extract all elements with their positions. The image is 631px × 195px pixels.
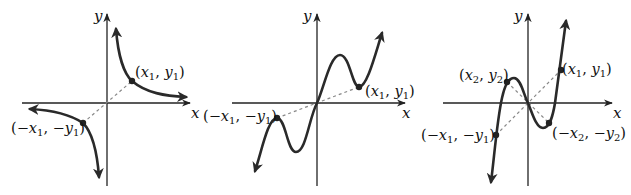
- x-axis-label: x: [191, 104, 200, 122]
- label-neg-x1-neg-y1: (−x1, −y1): [11, 120, 85, 138]
- graph-3: y x (x1, y1) (x2, y2) (−x1, −y1) (−x2, −…: [421, 7, 626, 186]
- label-x1-y1: (x1, y1): [365, 83, 415, 101]
- label-neg-x1-neg-y1: (−x1, −y1): [203, 108, 277, 126]
- label-x1-y1: (x1, y1): [135, 64, 185, 82]
- x-axis-label: x: [402, 104, 411, 122]
- graph-2: y x (x1, y1) (−x1, −y1): [203, 7, 415, 186]
- odd-function-graphs: y x (x1, y1) (−x1, −y1) y x (x1, y1) (−x…: [0, 0, 631, 195]
- y-axis-label: y: [302, 7, 312, 25]
- y-axis-label: y: [513, 7, 523, 25]
- x-axis-label: x: [613, 104, 622, 122]
- label-x2-y2: (x2, y2): [459, 67, 509, 85]
- odd-curve: [255, 33, 382, 171]
- curve-branch-upper: [116, 29, 186, 97]
- graph-1: y x (x1, y1) (−x1, −y1): [11, 7, 200, 186]
- label-neg-x2-neg-y2: (−x2, −y2): [552, 125, 626, 143]
- label-x1-y1: (x1, y1): [562, 61, 612, 79]
- y-axis-label: y: [93, 7, 103, 25]
- label-neg-x1-neg-y1: (−x1, −y1): [421, 127, 495, 145]
- point-x1-y1: [356, 84, 362, 90]
